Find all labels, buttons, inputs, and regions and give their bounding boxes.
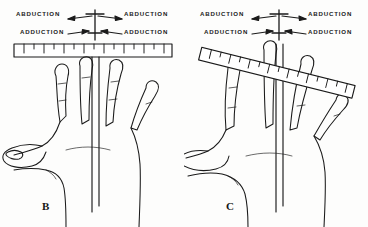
adduction-label-left-b: ADDUCTION [20, 29, 64, 35]
adduction-label-left-c: ADDUCTION [204, 29, 248, 35]
adduction-label-right-b: ADDUCTION [124, 29, 168, 35]
hand-outline-b [3, 57, 159, 227]
goniometer-ruler-b [14, 44, 172, 57]
abduction-label-left-c: ABDUCTION [200, 11, 244, 17]
panel-c: ABDUCTION ABDUCTION ADDUCTION ADDUCTION … [184, 0, 368, 227]
reference-axis-b [86, 10, 104, 40]
reference-axis-c [270, 10, 288, 40]
adduction-label-right-c: ADDUCTION [308, 29, 352, 35]
panel-letter-c: C [226, 201, 234, 212]
abduction-label-right-c: ABDUCTION [308, 11, 352, 17]
abduction-label-right-b: ABDUCTION [124, 11, 168, 17]
anatomy-figure: ABDUCTION ABDUCTION ADDUCTION ADDUCTION … [0, 0, 368, 227]
panel-b: ABDUCTION ABDUCTION ADDUCTION ADDUCTION … [0, 0, 184, 227]
goniometer-ruler-c [199, 47, 355, 98]
panel-letter-b: B [42, 201, 49, 212]
hand-axis-b [92, 57, 99, 212]
abduction-label-left-b: ABDUCTION [16, 11, 60, 17]
